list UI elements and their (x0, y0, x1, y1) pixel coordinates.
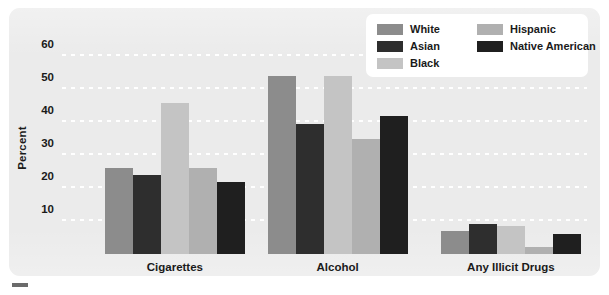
bar[interactable] (553, 234, 581, 254)
bar[interactable] (324, 76, 352, 254)
legend-item[interactable]: White (377, 21, 440, 37)
bar[interactable] (352, 139, 380, 254)
legend-label: Native American (510, 40, 596, 52)
bar[interactable] (469, 224, 497, 254)
y-tick-label: 50 (41, 71, 54, 83)
bar[interactable] (105, 168, 133, 254)
bar[interactable] (189, 168, 217, 254)
legend-item[interactable]: Asian (377, 38, 440, 54)
legend-label: White (410, 23, 440, 35)
legend-swatch-white (377, 24, 403, 35)
chart-screenshot: 102030405060 CigarettesAlcoholAny Illici… (0, 0, 609, 295)
bar[interactable] (497, 226, 525, 254)
bar[interactable] (441, 231, 469, 254)
bar[interactable] (133, 175, 161, 254)
y-tick-label: 40 (41, 104, 54, 116)
legend-label: Black (410, 57, 439, 69)
legend-swatch-black (377, 58, 403, 69)
bar[interactable] (217, 182, 245, 254)
y-tick-label: 60 (41, 38, 54, 50)
bar[interactable] (525, 247, 553, 254)
legend-swatch-asian (377, 41, 403, 52)
y-axis-label: Percent (16, 126, 28, 170)
legend-swatch-native-american (477, 41, 503, 52)
y-tick-label: 30 (41, 137, 54, 149)
legend: WhiteAsianBlack HispanicNative American (366, 14, 588, 77)
legend-item[interactable]: Native American (477, 38, 596, 54)
y-tick-label: 20 (41, 170, 54, 182)
legend-swatch-hispanic (477, 24, 503, 35)
legend-item[interactable]: Hispanic (477, 21, 596, 37)
legend-label: Hispanic (510, 23, 556, 35)
legend-column-right: HispanicNative American (477, 21, 596, 55)
corner-mark (12, 283, 28, 287)
legend-item[interactable]: Black (377, 55, 440, 71)
x-tick-label: Cigarettes (147, 261, 203, 273)
bar-group: Cigarettes (105, 40, 245, 254)
legend-column-left: WhiteAsianBlack (377, 21, 440, 72)
bar[interactable] (296, 124, 324, 254)
legend-label: Asian (410, 40, 440, 52)
y-tick-label: 10 (41, 203, 54, 215)
x-tick-label: Any Illicit Drugs (467, 261, 555, 273)
bar[interactable] (161, 103, 189, 254)
bar[interactable] (380, 116, 408, 254)
bar[interactable] (268, 76, 296, 254)
x-tick-label: Alcohol (317, 261, 359, 273)
